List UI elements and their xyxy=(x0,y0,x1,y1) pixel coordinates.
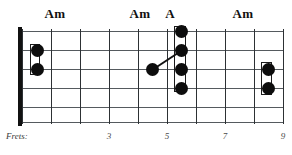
dot-fret1-string3 xyxy=(31,63,44,76)
fret-line-3 xyxy=(109,29,110,124)
string-line-1 xyxy=(22,31,284,32)
dot-fret5-string2 xyxy=(175,44,188,57)
fret-number-7: 7 xyxy=(223,131,228,141)
fret-number-3: 3 xyxy=(107,131,112,141)
string-line-4 xyxy=(22,88,284,89)
fret-line-5 xyxy=(167,29,168,124)
fret-line-0 xyxy=(22,29,23,124)
fretboard xyxy=(22,29,284,124)
dot-fret4-string3 xyxy=(146,63,159,76)
chord-label-am-1: Am xyxy=(45,6,66,22)
dot-fret5-string4 xyxy=(175,82,188,95)
fret-number-9: 9 xyxy=(281,131,286,141)
fret-line-4 xyxy=(138,29,139,124)
fret-number-axis: Frets: 3579 xyxy=(0,131,292,149)
string-line-2 xyxy=(22,50,284,51)
chord-label-a: A xyxy=(165,6,175,22)
fret-number-5: 5 xyxy=(165,131,170,141)
frets-caption: Frets: xyxy=(6,131,28,141)
fret-line-1 xyxy=(51,29,52,124)
fret-line-7 xyxy=(225,29,226,124)
dot-fret8-string4 xyxy=(262,82,275,95)
dot-fret5-string1 xyxy=(175,25,188,38)
fret-line-8 xyxy=(254,29,255,124)
string-line-5 xyxy=(22,107,284,108)
fret-line-2 xyxy=(80,29,81,124)
dot-fret1-string2 xyxy=(31,44,44,57)
chord-diagram-root: AmAmAAm Frets: 3579 xyxy=(0,0,292,155)
dot-fret5-string3 xyxy=(175,63,188,76)
string-line-6 xyxy=(22,122,284,123)
fret-line-6 xyxy=(196,29,197,124)
chord-label-am-2: Am xyxy=(130,6,151,22)
dot-fret8-string3 xyxy=(262,63,275,76)
chord-label-am-3: Am xyxy=(233,6,254,22)
fret-line-9 xyxy=(283,29,284,124)
